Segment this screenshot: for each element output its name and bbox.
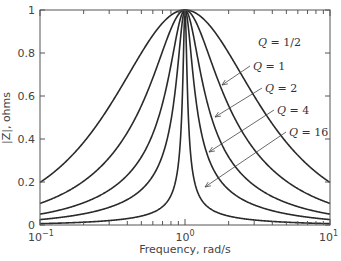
y-axis-title: |Z|, ohms [0, 92, 13, 144]
y-tick-label: 0.6 [18, 90, 36, 103]
annotation-label: Q = 2 [265, 82, 297, 95]
arrowhead-icon [205, 182, 211, 187]
impedance-chart: 00.20.40.60.81 10−1100101 Q = 1/2Q = 1Q … [0, 0, 341, 261]
arrowhead-icon [222, 80, 228, 85]
y-tick-label: 0.4 [18, 133, 36, 146]
annotation-label: Q = 1/2 [258, 36, 301, 49]
x-tick-label: 100 [175, 229, 194, 244]
arrowhead-icon [209, 147, 215, 152]
x-tick-label: 101 [319, 229, 338, 244]
y-tick-label: 0.2 [18, 176, 36, 189]
x-tick-labels: 10−1100101 [28, 229, 338, 244]
y-tick-label: 1 [28, 4, 35, 17]
arrowhead-icon [215, 112, 221, 117]
y-tick-label: 0.8 [18, 47, 36, 60]
annotation-label: Q = 4 [277, 104, 309, 117]
x-tick-label: 10−1 [28, 229, 54, 244]
annotation-label: Q = 1 [253, 60, 285, 73]
y-tick-labels: 00.20.40.60.81 [18, 4, 36, 232]
annotation-label: Q = 16 [289, 126, 328, 139]
x-axis-title: Frequency, rad/s [139, 243, 231, 256]
